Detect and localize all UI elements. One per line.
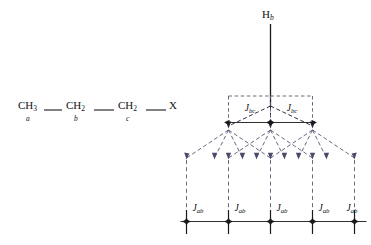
- root-label-subscript: b: [270, 13, 274, 22]
- arrowhead-q-7: [282, 153, 287, 160]
- structure-tag-b: b: [74, 114, 78, 123]
- jab-2-sub: ab: [239, 207, 246, 214]
- jab-3-sub: ab: [281, 207, 288, 214]
- structure-tag-c: c: [126, 114, 129, 123]
- q1-a: [187, 130, 229, 158]
- arrowhead-q-3: [226, 153, 231, 160]
- structure-group-x: X: [169, 100, 177, 111]
- jbc-label-right: Jbc: [282, 103, 302, 114]
- group-a-subscript: 3: [33, 104, 37, 113]
- group-b-subscript: 2: [81, 104, 85, 113]
- arrowhead-q-8: [296, 153, 301, 160]
- group-c-formula: CH: [118, 99, 133, 111]
- arrowhead-q-4: [240, 153, 245, 160]
- jbc-left-sub: bc: [249, 107, 255, 114]
- arrowhead-q-2: [212, 153, 217, 160]
- jab-4-sub: ab: [323, 207, 330, 214]
- structure-group-a: CH3: [18, 100, 37, 112]
- jbc-label-left: Jbc: [240, 103, 260, 114]
- jab-label-2: Jab: [229, 203, 251, 214]
- group-a-formula: CH: [18, 99, 33, 111]
- group-c-subscript: 2: [133, 104, 137, 113]
- structure-tag-a: a: [26, 114, 30, 123]
- jab-label-5: Jab: [341, 203, 363, 214]
- arrowhead-q-6: [268, 153, 273, 160]
- arrowhead-q-10: [324, 153, 329, 160]
- jab-label-1: Jab: [187, 203, 209, 214]
- jab-1-sub: ab: [197, 207, 204, 214]
- arrowhead-q-5: [254, 153, 259, 160]
- root-label-element: H: [262, 8, 270, 20]
- arrowhead-q-9: [310, 153, 315, 160]
- jbc-right-sub: bc: [291, 107, 297, 114]
- q3-d: [313, 130, 355, 158]
- jab-5-sub: ab: [351, 207, 358, 214]
- structure-group-b: CH2: [66, 100, 85, 112]
- jab-label-3: Jab: [271, 203, 293, 214]
- level2-branch-heads: [184, 153, 357, 160]
- jab-label-4: Jab: [313, 203, 335, 214]
- structure-group-c: CH2: [118, 100, 137, 112]
- group-b-formula: CH: [66, 99, 81, 111]
- figure-root: CH3 a CH2 b CH2 c X Hb Jbc Jbc Jab Jab J…: [0, 0, 371, 245]
- tree-root-label: Hb: [262, 8, 274, 22]
